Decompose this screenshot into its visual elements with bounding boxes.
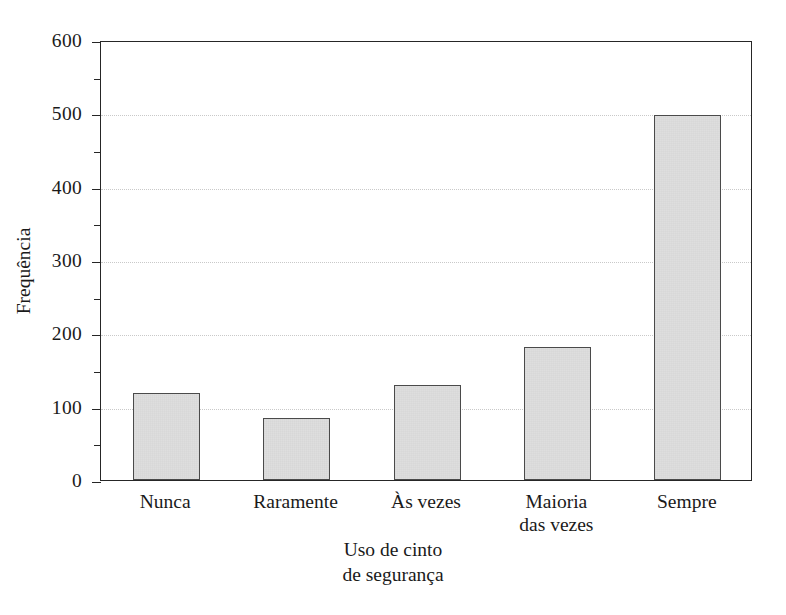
y-tick-label-500: 500 [0, 104, 82, 124]
y-tick-100 [92, 409, 101, 410]
y-tick-400 [92, 189, 101, 190]
y-tick-label-600: 600 [0, 31, 82, 51]
bar-1 [263, 418, 330, 480]
x-tick-label-as-vezes: Às vezes [361, 490, 491, 513]
y-tick-minor-550 [94, 79, 101, 80]
bar-3 [524, 347, 591, 480]
y-tick-0 [92, 482, 101, 483]
bar-4 [654, 115, 721, 480]
y-tick-200 [92, 335, 101, 336]
plot-area [100, 41, 752, 481]
y-tick-300 [92, 262, 101, 263]
y-tick-500 [92, 115, 101, 116]
bar-chart: Frequência 0 100 200 300 400 500 600 Nun… [0, 0, 786, 615]
bar-0 [133, 393, 200, 480]
x-tick-label-sempre: Sempre [622, 490, 752, 513]
y-tick-label-0: 0 [0, 471, 82, 491]
y-tick-minor-250 [94, 299, 101, 300]
y-tick-label-300: 300 [0, 251, 82, 271]
y-tick-minor-50 [94, 445, 101, 446]
y-tick-600 [92, 42, 101, 43]
y-tick-minor-150 [94, 372, 101, 373]
y-tick-label-100: 100 [0, 398, 82, 418]
x-tick-label-maioria-das-vezes: Maioria das vezes [491, 490, 621, 536]
y-tick-minor-450 [94, 152, 101, 153]
y-tick-minor-350 [94, 225, 101, 226]
x-tick-label-raramente: Raramente [230, 490, 360, 513]
y-tick-label-200: 200 [0, 324, 82, 344]
x-axis-title: Uso de cinto de segurança [293, 537, 493, 587]
x-tick-label-nunca: Nunca [100, 490, 230, 513]
bar-2 [394, 385, 461, 480]
y-tick-label-400: 400 [0, 178, 82, 198]
